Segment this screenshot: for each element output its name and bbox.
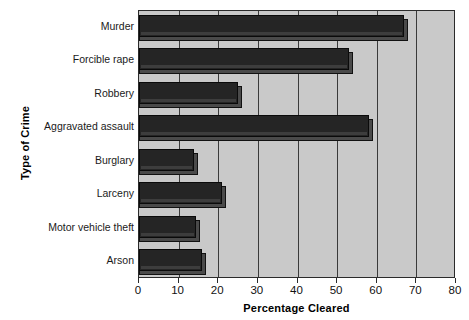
bar	[139, 15, 408, 37]
x-axis-tick	[376, 278, 377, 283]
bar-chart: Type of Crime MurderForcible rapeRobbery…	[0, 0, 469, 320]
category-label: Motor vehicle theft	[18, 222, 134, 233]
x-axis-tick	[138, 278, 139, 283]
category-label: Robbery	[18, 88, 134, 99]
x-axis-tick-label: 10	[163, 284, 193, 296]
bar-face	[139, 149, 194, 171]
bar	[139, 48, 353, 70]
x-axis-tick	[336, 278, 337, 283]
bar-face	[139, 216, 196, 238]
gridline	[377, 11, 378, 277]
x-axis-tick	[455, 278, 456, 283]
plot-area	[138, 10, 455, 278]
x-axis-tick-label: 60	[361, 284, 391, 296]
x-axis-tick	[257, 278, 258, 283]
x-axis-title: Percentage Cleared	[138, 302, 455, 314]
bar-face	[139, 15, 404, 37]
x-axis-tick-label: 0	[123, 284, 153, 296]
x-axis-tick-label: 50	[321, 284, 351, 296]
bar	[139, 82, 242, 104]
category-label: Burglary	[18, 155, 134, 166]
x-axis-tick-labels: 01020304050607080	[138, 284, 455, 299]
bar	[139, 115, 373, 137]
category-label: Arson	[18, 255, 134, 266]
bar	[139, 149, 198, 171]
bar	[139, 182, 226, 204]
bar-face	[139, 249, 202, 271]
x-axis-tick-label: 70	[400, 284, 430, 296]
x-axis-tick	[217, 278, 218, 283]
category-label: Aggravated assault	[18, 121, 134, 132]
x-axis-tick-label: 80	[440, 284, 469, 296]
x-axis-tick-label: 20	[202, 284, 232, 296]
x-axis-tick-label: 40	[282, 284, 312, 296]
bar	[139, 216, 200, 238]
x-axis-tick	[297, 278, 298, 283]
bar-face	[139, 115, 369, 137]
gridline	[416, 11, 417, 277]
bar-face	[139, 48, 349, 70]
bar-face	[139, 182, 222, 204]
bar-face	[139, 82, 238, 104]
category-label-list: MurderForcible rapeRobberyAggravated ass…	[18, 10, 134, 278]
x-axis-tick	[415, 278, 416, 283]
x-axis-tick-label: 30	[242, 284, 272, 296]
category-label: Forcible rape	[18, 54, 134, 65]
category-label: Murder	[18, 21, 134, 32]
x-axis-tick	[178, 278, 179, 283]
category-label: Larceny	[18, 188, 134, 199]
bar	[139, 249, 206, 271]
